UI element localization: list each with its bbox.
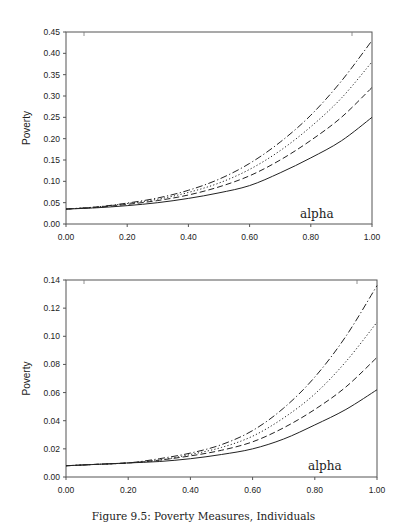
series-dashed	[66, 87, 372, 209]
x-tick-label: 0.80	[303, 232, 320, 242]
x-tick-label: 0.60	[244, 485, 261, 495]
y-tick-label: 0.25	[43, 112, 60, 122]
y-tick-label: 0.15	[43, 155, 60, 165]
y-tick-label: 0.08	[43, 359, 60, 369]
x-tick-label: 0.20	[120, 485, 137, 495]
figure-caption: Figure 9.5: Poverty Measures, Individual…	[0, 510, 407, 522]
x-tick-label: 1.00	[369, 485, 386, 495]
y-tick-label: 0.00	[43, 472, 60, 482]
figure-charts: 0.000.050.100.150.200.250.300.350.400.45…	[0, 0, 407, 524]
chart-2: 0.000.020.040.060.080.100.120.140.000.20…	[21, 275, 386, 495]
y-tick-label: 0.00	[43, 219, 60, 229]
x-tick-label: 1.00	[364, 232, 381, 242]
y-tick-label: 0.12	[43, 303, 60, 313]
y-tick-label: 0.20	[43, 134, 60, 144]
alpha-annotation: alpha	[308, 459, 342, 473]
series-dash-dot	[66, 41, 372, 210]
y-tick-label: 0.35	[43, 70, 60, 80]
y-tick-label: 0.02	[43, 444, 60, 454]
y-tick-label: 0.45	[43, 27, 60, 37]
x-tick-label: 0.20	[119, 232, 136, 242]
y-tick-label: 0.10	[43, 331, 60, 341]
x-tick-label: 0.00	[58, 485, 75, 495]
x-tick-label: 0.80	[307, 485, 324, 495]
x-tick-label: 0.00	[58, 232, 75, 242]
plot-frame	[66, 32, 372, 224]
x-tick-label: 0.40	[180, 232, 197, 242]
y-tick-label: 0.40	[43, 48, 60, 58]
series-solid	[66, 390, 377, 466]
alpha-annotation: alpha	[300, 207, 334, 221]
series-dotted	[66, 322, 377, 466]
y-tick-label: 0.30	[43, 91, 60, 101]
y-tick-label: 0.05	[43, 198, 60, 208]
x-tick-label: 0.60	[241, 232, 258, 242]
chart-1: 0.000.050.100.150.200.250.300.350.400.45…	[21, 27, 381, 242]
y-axis-label: Poverty	[21, 111, 32, 145]
x-tick-label: 0.40	[182, 485, 199, 495]
y-tick-label: 0.10	[43, 176, 60, 186]
series-solid	[66, 117, 372, 209]
y-tick-label: 0.06	[43, 388, 60, 398]
series-dash-dot	[66, 286, 377, 466]
y-axis-label: Poverty	[21, 362, 32, 396]
series-dashed	[66, 357, 377, 465]
y-tick-label: 0.04	[43, 416, 60, 426]
y-tick-label: 0.14	[43, 275, 60, 285]
